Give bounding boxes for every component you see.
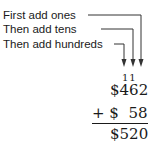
tens-arrowhead-icon (131, 59, 136, 67)
addend-2: + $ 58 (92, 104, 148, 122)
hundreds-arrowhead-icon (122, 59, 127, 67)
hundreds-arrow-line (114, 44, 124, 61)
addend-1: $462 (110, 81, 148, 99)
tens-arrow-line (101, 29, 133, 61)
sum-rule (92, 123, 148, 124)
sum: $520 (110, 125, 148, 143)
ones-arrowhead-icon (139, 59, 144, 67)
